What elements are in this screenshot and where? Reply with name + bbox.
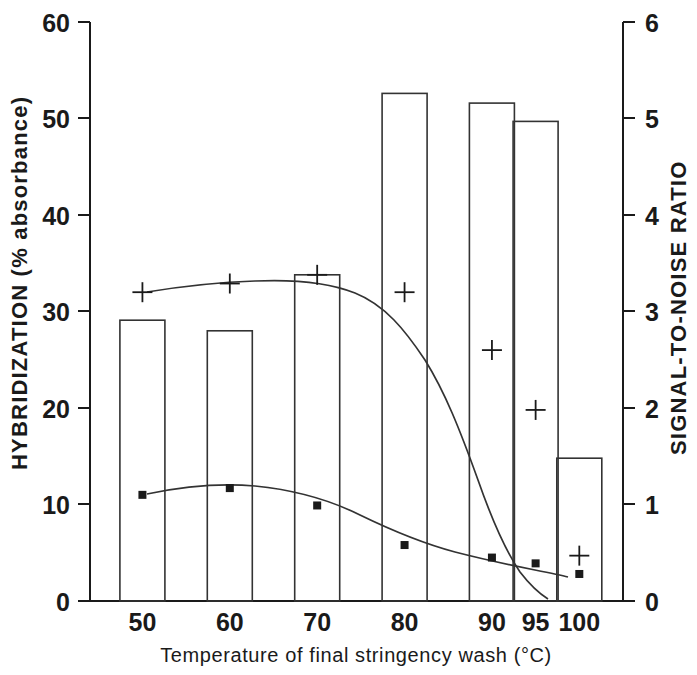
square-marker: [488, 554, 496, 562]
left-axis-title: HYBRIDIZATION (% absorbance): [7, 96, 32, 470]
plus-marker: [526, 400, 546, 420]
square-marker: [401, 541, 409, 549]
figure-container: 60 50 40 30 20 10 0 6 5 4 3 2 1 0: [0, 0, 697, 675]
plus-marker: [132, 282, 152, 302]
plus-marker: [220, 274, 240, 294]
bottom-tick-label: 80: [391, 608, 419, 636]
right-tick-label-0: 0: [645, 588, 659, 616]
right-tick-label-2: 2: [645, 395, 659, 423]
left-tick-label-10: 10: [42, 491, 70, 519]
plus-marker: [482, 340, 502, 360]
bar: [557, 458, 602, 601]
bar: [120, 320, 165, 601]
bar: [207, 331, 252, 601]
plus-markers-group: [132, 265, 589, 566]
square-series-path: [147, 485, 568, 577]
right-axis-ticks: [623, 22, 635, 601]
right-tick-label-3: 3: [645, 298, 659, 326]
bottom-tick-label: 100: [558, 608, 600, 636]
bottom-axis-tick-labels: 506070809095100: [128, 608, 600, 636]
bottom-tick-label: 90: [478, 608, 506, 636]
square-marker: [532, 559, 540, 567]
bar: [513, 121, 558, 601]
bottom-axis-title: Temperature of final stringency wash (°C…: [160, 644, 552, 666]
left-tick-label-20: 20: [42, 395, 70, 423]
plus-marker: [395, 282, 415, 302]
right-axis-tick-labels: 6 5 4 3 2 1 0: [645, 9, 659, 616]
square-marker: [313, 501, 321, 509]
bottom-tick-label: 60: [216, 608, 244, 636]
square-marker: [138, 491, 146, 499]
left-axis-tick-labels: 60 50 40 30 20 10 0: [42, 9, 70, 616]
bar: [295, 275, 340, 601]
left-tick-label-50: 50: [42, 105, 70, 133]
left-tick-label-30: 30: [42, 298, 70, 326]
bar: [382, 93, 427, 601]
right-tick-label-5: 5: [645, 105, 659, 133]
right-tick-label-6: 6: [645, 9, 659, 37]
square-series-curve: [147, 485, 568, 577]
right-tick-label-1: 1: [645, 491, 659, 519]
square-marker: [575, 570, 583, 578]
right-tick-label-4: 4: [645, 202, 659, 230]
square-marker: [226, 484, 234, 492]
hybridization-vs-temperature-chart: 60 50 40 30 20 10 0 6 5 4 3 2 1 0: [0, 0, 697, 675]
left-tick-label-40: 40: [42, 202, 70, 230]
left-tick-label-60: 60: [42, 9, 70, 37]
left-tick-label-0: 0: [56, 588, 70, 616]
left-axis-ticks: [78, 22, 90, 601]
plus-marker: [569, 546, 589, 566]
bottom-tick-label: 70: [303, 608, 331, 636]
bars-group: [120, 93, 602, 601]
right-axis-title: SIGNAL-TO-NOISE RATIO: [666, 161, 691, 456]
bottom-tick-label: 50: [128, 608, 156, 636]
bottom-tick-label: 95: [522, 608, 550, 636]
square-markers-group: [138, 484, 583, 578]
